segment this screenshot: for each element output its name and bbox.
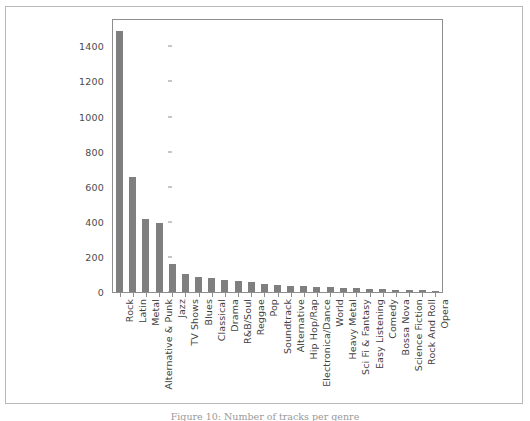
- y-tick-label: 200: [85, 251, 104, 262]
- x-tick-label: Jazz: [176, 299, 187, 318]
- bar: [156, 223, 163, 292]
- bar: [195, 277, 202, 292]
- x-tick-label: Sci Fi & Fantasy: [360, 299, 371, 375]
- x-tick-label: Comedy: [387, 299, 398, 339]
- x-tick-label: TV Shows: [189, 299, 200, 346]
- x-tick-mark: [120, 293, 121, 297]
- x-tick-label: Easy Listening: [374, 299, 385, 369]
- x-tick-mark: [159, 293, 160, 297]
- x-tick-mark: [304, 293, 305, 297]
- x-tick-label: Electronica/Dance: [321, 299, 332, 387]
- bar: [142, 219, 149, 292]
- x-tick-mark: [199, 293, 200, 297]
- x-tick-label: World: [334, 299, 345, 327]
- x-tick-mark: [278, 293, 279, 297]
- y-tick-label: 1400: [79, 41, 104, 52]
- x-tick-mark: [383, 293, 384, 297]
- x-tick-mark: [330, 293, 331, 297]
- bar: [221, 280, 228, 292]
- x-tick-label: Metal: [150, 299, 161, 326]
- x-tick-mark: [264, 293, 265, 297]
- x-tick-mark: [409, 293, 410, 297]
- bar-series: [113, 20, 442, 292]
- x-tick-label: Drama: [229, 299, 240, 332]
- bar: [169, 264, 176, 292]
- x-tick-label: Bossa Nova: [400, 299, 411, 355]
- bar: [353, 288, 360, 292]
- x-tick-mark: [251, 293, 252, 297]
- x-tick-mark: [225, 293, 226, 297]
- x-tick-label: Soundtrack: [282, 299, 293, 354]
- x-tick-label: R&B/Soul: [242, 299, 253, 344]
- x-tick-label: Hip Hop/Rap: [308, 299, 319, 359]
- y-tick-label: 600: [85, 181, 104, 192]
- bar: [248, 282, 255, 292]
- y-tick-label: 1000: [79, 111, 104, 122]
- bar: [366, 289, 373, 293]
- x-tick-mark: [185, 293, 186, 297]
- y-tick-label: 400: [85, 216, 104, 227]
- x-tick-mark: [396, 293, 397, 297]
- x-tick-label: Latin: [137, 299, 148, 323]
- x-axis-labels: RockLatinMetalAlternative & PunkJazzTV S…: [113, 299, 442, 399]
- x-tick-label: Rock And Roll: [426, 299, 437, 365]
- bar: [392, 290, 399, 292]
- x-tick-mark: [317, 293, 318, 297]
- bar: [208, 278, 215, 292]
- x-tick-label: Opera: [439, 299, 450, 329]
- x-tick-mark: [238, 293, 239, 297]
- x-tick-mark: [212, 293, 213, 297]
- bar: [261, 284, 268, 292]
- bar: [379, 289, 386, 292]
- bar: [129, 177, 136, 292]
- bar: [300, 286, 307, 292]
- bar: [116, 31, 123, 292]
- bar: [235, 281, 242, 292]
- bar: [327, 287, 334, 292]
- x-axis-ticks: [113, 293, 442, 298]
- x-tick-label: Blues: [203, 299, 214, 325]
- bar: [287, 286, 294, 292]
- bar: [340, 288, 347, 292]
- x-tick-mark: [370, 293, 371, 297]
- x-tick-mark: [343, 293, 344, 297]
- x-tick-label: Heavy Metal: [347, 299, 358, 359]
- bar: [313, 287, 320, 292]
- bar: [432, 291, 439, 292]
- x-tick-mark: [133, 293, 134, 297]
- x-tick-mark: [146, 293, 147, 297]
- y-tick-label: 800: [85, 146, 104, 157]
- x-tick-label: Science Fiction: [413, 299, 424, 371]
- bar: [182, 274, 189, 292]
- bar: [406, 290, 413, 292]
- x-tick-mark: [435, 293, 436, 297]
- x-tick-mark: [291, 293, 292, 297]
- x-tick-mark: [356, 293, 357, 297]
- y-tick-label: 0: [98, 287, 104, 298]
- x-tick-label: Rock: [124, 299, 135, 322]
- x-tick-label: Classical: [216, 299, 227, 341]
- x-tick-label: Alternative & Punk: [163, 299, 174, 389]
- x-tick-label: Reggae: [255, 299, 266, 335]
- y-axis: 0200400600800100012001400: [60, 19, 110, 293]
- x-tick-mark: [172, 293, 173, 297]
- x-tick-label: Alternative: [295, 299, 306, 352]
- bar: [274, 285, 281, 292]
- y-tick-label: 1200: [79, 76, 104, 87]
- bar: [419, 290, 426, 292]
- figure-caption: Figure 10: Number of tracks per genre: [0, 411, 530, 421]
- x-tick-mark: [422, 293, 423, 297]
- x-tick-label: Pop: [268, 299, 279, 317]
